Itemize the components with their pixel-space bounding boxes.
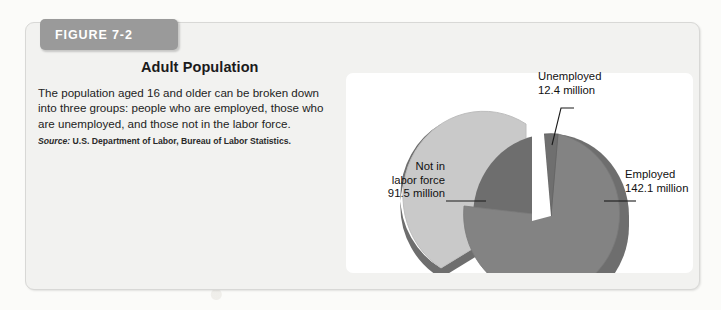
label-not-in-labor-force: Not in labor force 91.5 million: [345, 160, 445, 201]
figure-number-tab: FIGURE 7-2: [40, 19, 178, 50]
figure-source: Source: U.S. Department of Labor, Bureau…: [38, 135, 320, 147]
source-prefix: Source:: [38, 136, 70, 146]
source-text: U.S. Department of Labor, Bureau of Labo…: [70, 136, 291, 146]
label-unemployed: Unemployed 12.4 million: [538, 70, 601, 97]
figure-description: The population aged 16 and older can be …: [38, 85, 326, 131]
figure-number-label: FIGURE 7-2: [40, 28, 133, 42]
figure-title: Adult Population: [141, 59, 259, 75]
figure-box: FIGURE 7-2 Adult Population The populati…: [25, 22, 700, 290]
label-employed: Employed 142.1 million: [625, 168, 688, 195]
